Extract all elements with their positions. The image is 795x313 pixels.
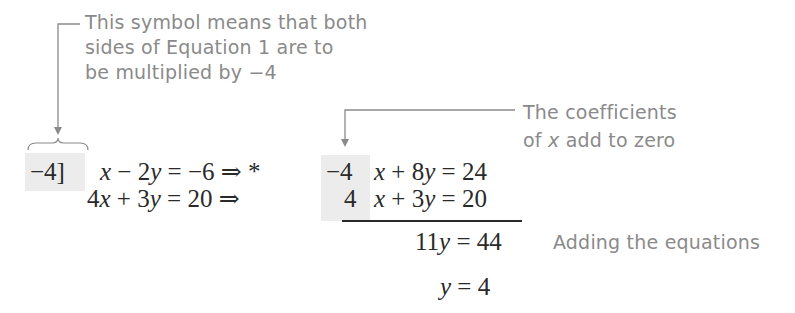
coefficients-arrowhead-icon [341,139,349,147]
math-text: + 3 [111,185,150,212]
math-text: 11 [415,228,439,255]
math-text: = −6 ⇒ * [161,158,260,185]
equation-1-original: x − 2y = −6 ⇒ * [100,158,260,186]
annotation-text: add to zero [559,129,675,151]
math-text: − 2 [111,158,150,185]
math-text: = 20 ⇒ [161,185,240,212]
annotation-line: This symbol means that both [85,10,368,35]
variable-y: y [439,228,450,255]
math-text: = 20 [435,185,487,212]
variable-x: x [548,129,559,151]
result-equation: y = 4 [440,273,490,301]
variable-x: x [374,185,385,212]
variable-y: y [440,273,451,300]
math-text: = 44 [450,228,502,255]
brace-icon [28,138,88,150]
variable-x: x [374,158,385,185]
annotation-line: sides of Equation 1 are to [85,35,368,60]
multiplier-symbol: −4] [30,158,65,186]
annotation-line: of x add to zero [523,126,677,154]
coefficients-leader-arrow [345,110,515,140]
variable-y: y [424,185,435,212]
multiplier-annotation: This symbol means that both sides of Equ… [85,10,368,85]
math-text: = 24 [435,158,487,185]
sum-rule [342,220,522,222]
variable-x: x [100,185,111,212]
variable-x: x [100,158,111,185]
annotation-text: of [523,129,548,151]
math-text: = 4 [451,273,490,300]
equation-2-original: 4x + 3y = 20 ⇒ [87,185,240,213]
math-text: + 3 [385,185,424,212]
math-text: 4 [87,185,100,212]
adding-annotation: Adding the equations [553,230,760,255]
equation-1-multiplied: x + 8y = 24 [374,158,487,186]
variable-y: y [424,158,435,185]
equation-1-coefficient: −4 [326,158,353,186]
equation-2-coefficient: 4 [344,185,357,213]
coefficients-annotation: The coefficients of x add to zero [523,98,677,154]
equation-2-copy: x + 3y = 20 [374,185,487,213]
math-text: + 8 [385,158,424,185]
top-arrowhead-icon [54,127,62,135]
top-leader-arrow [58,24,80,128]
annotation-line: be multiplied by −4 [85,60,368,85]
variable-y: y [150,185,161,212]
sum-equation: 11y = 44 [415,228,502,256]
variable-y: y [150,158,161,185]
annotation-line: The coefficients [523,98,677,126]
